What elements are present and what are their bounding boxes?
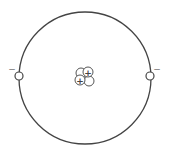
electron-left (15, 72, 23, 80)
electron-charge-left: − (8, 64, 16, 74)
proton-sign: + (84, 68, 92, 78)
electron-charge-right: − (153, 64, 161, 74)
atom-diagram: + + − − (0, 0, 172, 154)
neutron (84, 76, 94, 86)
proton-sign: + (76, 76, 84, 86)
